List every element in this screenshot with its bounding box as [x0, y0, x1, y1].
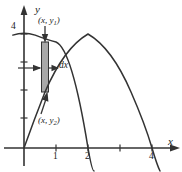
y-axis-label: y — [35, 4, 40, 15]
upper-point-prefix: (x, y — [38, 15, 54, 25]
upper-point-suffix: ) — [57, 15, 60, 25]
upper-point-subscript: 1 — [54, 19, 57, 26]
x-tick-label-2: 2 — [85, 152, 90, 162]
upper-point-label: (x, y1) — [38, 16, 60, 25]
lower-point-label: (x, y2) — [38, 116, 60, 125]
dx-width-label: dx — [59, 61, 68, 71]
x-tick-label-4: 4 — [149, 152, 154, 162]
x-tick-label-1: 1 — [53, 152, 58, 162]
lower-point-prefix: (x, y — [38, 115, 54, 125]
figure-container: y x 4 1 2 4 (x, y1) (x, y2) dx — [0, 0, 182, 172]
axes-group — [4, 5, 180, 166]
dx-left-arrowhead — [33, 65, 42, 71]
x-axis-label: x — [168, 136, 173, 147]
y-tick-label-4: 4 — [11, 22, 16, 32]
y-axis-arrowhead — [21, 5, 28, 15]
area-element-strip — [42, 42, 49, 92]
figure-canvas — [0, 0, 182, 172]
lower-point-suffix: ) — [57, 115, 60, 125]
lower-point-subscript: 2 — [54, 119, 57, 126]
